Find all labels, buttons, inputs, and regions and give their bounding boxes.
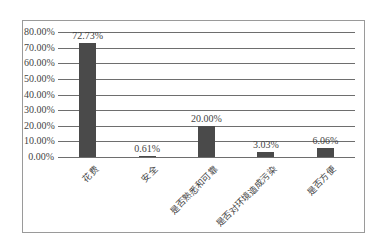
bar: [139, 156, 156, 158]
data-label: 0.61%: [122, 144, 172, 154]
bar: [317, 148, 334, 157]
y-tick-label: 50.00%: [24, 74, 54, 84]
gridline: [58, 79, 355, 80]
y-tick-label: 20.00%: [24, 121, 54, 131]
bar: [257, 152, 274, 157]
y-tick-label: 60.00%: [24, 58, 54, 68]
plot-area: 72.73%0.61%20.00%3.03%6.06%: [58, 32, 355, 157]
data-label: 20.00%: [182, 114, 232, 124]
data-label: 72.73%: [63, 31, 113, 41]
y-tick-label: 70.00%: [24, 43, 54, 53]
gridline: [58, 110, 355, 111]
bar: [79, 43, 96, 157]
y-tick-label: 0.00%: [24, 152, 54, 162]
gridline: [58, 95, 355, 96]
gridline: [58, 48, 355, 49]
y-tick-label: 10.00%: [24, 136, 54, 146]
gridline: [58, 157, 355, 158]
bar: [198, 126, 215, 157]
y-tick-label: 30.00%: [24, 105, 54, 115]
y-tick-label: 40.00%: [24, 90, 54, 100]
data-label: 6.06%: [300, 136, 350, 146]
gridline: [58, 63, 355, 64]
y-tick-label: 80.00%: [24, 27, 54, 37]
data-label: 3.03%: [241, 140, 291, 150]
